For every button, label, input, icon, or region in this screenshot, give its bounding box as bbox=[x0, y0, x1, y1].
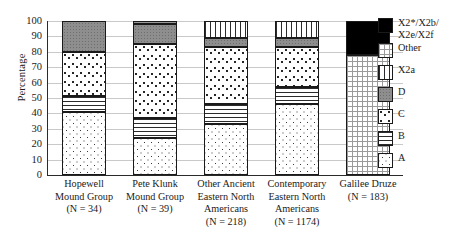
legend-label-line: X2e/X2f bbox=[398, 29, 439, 41]
stacked-bar-chart: Percentage 1009080706050403020100 Hopewe… bbox=[0, 0, 453, 235]
x-category-line: Galilee Druze bbox=[320, 178, 416, 191]
y-tick-label-80: 80 bbox=[12, 47, 42, 57]
bar-segment-C bbox=[62, 52, 106, 97]
bar-2 bbox=[133, 21, 177, 175]
bar-segment-D bbox=[275, 38, 319, 47]
legend-label-D: D bbox=[398, 86, 405, 98]
legend-swatch-X2star bbox=[378, 18, 393, 33]
legend-label-X2star: X2*/X2b/X2e/X2f bbox=[398, 17, 439, 40]
legend-swatch-Other bbox=[378, 43, 393, 58]
legend-label-line: C bbox=[398, 108, 405, 120]
bar-segment-B bbox=[204, 104, 248, 124]
x-axis-line bbox=[47, 175, 403, 176]
bar-segment-B bbox=[62, 96, 106, 111]
x-category-line: (N = 1174) bbox=[249, 216, 345, 229]
legend-swatch-C bbox=[378, 109, 393, 124]
legend-label-line: Other bbox=[398, 42, 421, 54]
legend-label-line: X2a bbox=[398, 64, 415, 76]
legend-label-line: D bbox=[398, 86, 405, 98]
bar-segment-C bbox=[275, 47, 319, 87]
legend-label-line: X2*/X2b/ bbox=[398, 17, 439, 29]
bar-segment-C bbox=[133, 44, 177, 118]
legend-label-X2a: X2a bbox=[398, 64, 415, 76]
plot-area bbox=[48, 21, 403, 175]
y-tick-label-20: 20 bbox=[12, 139, 42, 149]
legend-label-B: B bbox=[398, 130, 405, 142]
bar-segment-A bbox=[275, 104, 319, 175]
y-tick-label-50: 50 bbox=[12, 93, 42, 103]
y-tick-label-60: 60 bbox=[12, 78, 42, 88]
legend-swatch-B bbox=[378, 131, 393, 146]
y-tick-label-90: 90 bbox=[12, 31, 42, 41]
bar-4 bbox=[275, 21, 319, 175]
bar-segment-A bbox=[204, 124, 248, 175]
y-tick-label-10: 10 bbox=[12, 155, 42, 165]
legend-swatch-X2a bbox=[378, 65, 393, 80]
legend-label-line: A bbox=[398, 152, 405, 164]
bar-segment-D bbox=[204, 38, 248, 47]
bar-segment-X2a bbox=[275, 21, 319, 38]
y-tick-label-40: 40 bbox=[12, 108, 42, 118]
bar-segment-Other bbox=[133, 21, 177, 24]
legend-label-line: B bbox=[398, 130, 405, 142]
bar-segment-B bbox=[275, 87, 319, 104]
x-category-line: (N = 183) bbox=[320, 191, 416, 204]
legend-swatch-D bbox=[378, 87, 393, 102]
x-category-line: Americans bbox=[249, 203, 345, 216]
bar-1 bbox=[62, 21, 106, 175]
bar-segment-X2a bbox=[204, 21, 248, 38]
bar-segment-A bbox=[133, 138, 177, 175]
y-tick-label-30: 30 bbox=[12, 124, 42, 134]
bar-segment-D bbox=[133, 24, 177, 44]
bar-segment-C bbox=[204, 47, 248, 104]
bar-segment-B bbox=[133, 118, 177, 138]
bar-segment-D bbox=[62, 21, 106, 52]
bar-segment-A bbox=[62, 112, 106, 175]
bar-3 bbox=[204, 21, 248, 175]
legend-label-C: C bbox=[398, 108, 405, 120]
y-tick-label-70: 70 bbox=[12, 62, 42, 72]
x-category-label-5: Galilee Druze(N = 183) bbox=[320, 178, 416, 203]
legend-label-Other: Other bbox=[398, 42, 421, 54]
y-tick-label-100: 100 bbox=[12, 16, 42, 26]
legend-label-A: A bbox=[398, 152, 405, 164]
legend-swatch-A bbox=[378, 153, 393, 168]
